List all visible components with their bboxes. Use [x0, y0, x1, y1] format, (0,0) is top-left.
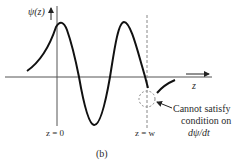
x-axis-label: z: [191, 80, 196, 91]
wavefunction-curve: [27, 22, 148, 125]
figure-caption: (b): [96, 148, 108, 160]
annotation-line-3: dψ/dt: [188, 127, 210, 138]
wavefunction-outside-segment: [157, 80, 175, 93]
annotation-pointer-arrow-icon: [157, 102, 172, 108]
marker-z0-label: z = 0: [46, 128, 65, 138]
marker-zw-label: z = w: [135, 128, 156, 138]
annotation-line-1: Cannot satisfy: [173, 103, 231, 114]
discontinuity-highlight-circle: [139, 91, 155, 107]
y-axis-label: ψ(z): [28, 6, 45, 18]
annotation-line-2: condition on: [181, 115, 231, 126]
wavefunction-diagram: ψ(z) z z = 0 z = w Cannot satisfy condit…: [0, 0, 246, 166]
